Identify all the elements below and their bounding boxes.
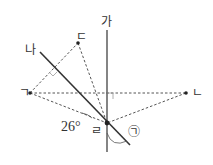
points	[28, 41, 188, 125]
label-point-rieul: ㄹ	[91, 124, 102, 138]
dashed-segments	[30, 43, 186, 123]
diagram-canvas: 가 나 ㄱ ㄴ ㄷ ㄹ 26° ㉠	[0, 0, 213, 165]
label-line-ga: 가	[101, 15, 112, 29]
point-rieul	[105, 121, 110, 126]
segment-nieun-rieul	[107, 93, 186, 123]
label-point-giyeok: ㄱ	[19, 86, 30, 100]
label-line-na: 나	[25, 43, 36, 57]
segment-digeut-rieul	[78, 43, 107, 123]
segment-giyeok-digeut	[30, 43, 78, 93]
label-point-digeut: ㄷ	[76, 30, 87, 44]
point-nieun	[184, 91, 188, 95]
angle-arc-26	[82, 113, 92, 118]
marked-angle-label: ㉠	[128, 125, 140, 139]
angle-label-26: 26°	[61, 119, 81, 134]
geometry-diagram: 가 나 ㄱ ㄴ ㄷ ㄹ 26° ㉠	[0, 0, 213, 165]
right-angle-mark-ga	[107, 93, 113, 99]
label-point-nieun: ㄴ	[192, 86, 203, 100]
line-na	[40, 52, 130, 145]
